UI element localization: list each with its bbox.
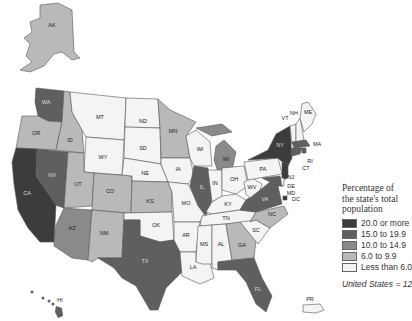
legend-row-10-14: 10.0 to 14.9: [342, 240, 412, 251]
label-MN: MN: [169, 128, 178, 134]
label-KS: KS: [146, 198, 154, 204]
label-DC: DC: [292, 196, 300, 202]
state-AK: AK: [20, 3, 80, 72]
label-NE: NE: [141, 170, 149, 176]
state-ME: ME: [300, 102, 316, 132]
legend-row-15-19: 15.0 to 19.9: [342, 229, 412, 240]
label-TN: TN: [222, 215, 229, 221]
state-MS: MS: [196, 225, 212, 264]
label-UT: UT: [74, 181, 82, 187]
state-SD: SD: [124, 127, 161, 164]
label-MI: MI: [223, 156, 230, 162]
label-SD: SD: [139, 145, 147, 151]
state-MA: MA: [292, 140, 321, 148]
legend-row-under-6: Less than 6.0: [342, 262, 412, 273]
state-DC: DC: [283, 196, 300, 202]
label-LA: LA: [190, 264, 197, 270]
legend-row-6-9: 6.0 to 9.9: [342, 251, 412, 262]
label-GA: GA: [238, 242, 246, 248]
state-AR: AR: [174, 222, 200, 252]
label-HI: HI: [57, 297, 63, 303]
label-ID: ID: [67, 137, 73, 143]
label-CT: CT: [302, 165, 310, 171]
legend-swatch: [342, 230, 357, 239]
label-WI: WI: [197, 146, 204, 152]
label-AL: AL: [218, 241, 225, 247]
label-OK: OK: [152, 222, 160, 228]
label-MA: MA: [313, 141, 322, 147]
label-MS: MS: [200, 241, 209, 247]
label-MO: MO: [182, 200, 192, 206]
label-CA: CA: [23, 190, 31, 196]
label-NH: NH: [290, 110, 298, 116]
state-FL: FL: [218, 258, 272, 312]
legend-swatch: [342, 219, 357, 228]
label-PA: PA: [260, 166, 267, 172]
label-NJ: NJ: [288, 174, 295, 180]
label-VT: VT: [281, 115, 289, 121]
label-ND: ND: [139, 118, 147, 124]
label-NY: NY: [276, 142, 284, 148]
label-OR: OR: [32, 130, 40, 136]
label-AZ: AZ: [68, 225, 76, 231]
state-RI: RI: [302, 148, 313, 164]
state-PR: PR: [303, 296, 324, 313]
label-MT: MT: [96, 114, 105, 120]
label-WA: WA: [42, 99, 51, 105]
label-SC: SC: [252, 227, 260, 233]
label-IN: IN: [212, 180, 218, 186]
label-WY: WY: [99, 154, 108, 160]
label-OH: OH: [230, 176, 238, 182]
label-VA: VA: [262, 196, 269, 202]
state-KS: KS: [131, 181, 172, 213]
legend-title: Percentage of the state's total populati…: [342, 183, 412, 215]
label-AR: AR: [182, 232, 190, 238]
label-KY: KY: [224, 201, 232, 207]
label-NC: NC: [268, 211, 276, 217]
label-IA: IA: [175, 166, 181, 172]
state-HI: HI: [31, 291, 64, 319]
legend-swatch: [342, 241, 357, 250]
label-IL: IL: [200, 184, 205, 190]
legend-row-20-plus: 20.0 or more: [342, 218, 412, 229]
label-TX: TX: [141, 258, 148, 264]
label-NM: NM: [100, 230, 109, 236]
label-ME: ME: [304, 109, 313, 115]
label-CO: CO: [106, 188, 115, 194]
map-legend: Percentage of the state's total populati…: [342, 183, 412, 289]
state-ND: ND: [125, 98, 160, 128]
label-FL: FL: [255, 286, 261, 292]
label-RI: RI: [307, 158, 313, 164]
label-WV: WV: [248, 184, 257, 190]
state-CO: CO: [92, 173, 132, 213]
legend-swatch: [342, 252, 357, 261]
label-PR: PR: [306, 296, 314, 302]
label-DE: DE: [287, 183, 295, 189]
state-OH: OH: [222, 166, 248, 194]
state-NM: NM: [88, 210, 124, 262]
state-WY: WY: [84, 137, 124, 175]
state-AZ: AZ: [54, 208, 92, 260]
label-AK: AK: [48, 22, 56, 28]
legend-swatch: [342, 263, 357, 272]
label-NV: NV: [48, 172, 56, 178]
us-total: United States = 12.5: [342, 279, 412, 289]
